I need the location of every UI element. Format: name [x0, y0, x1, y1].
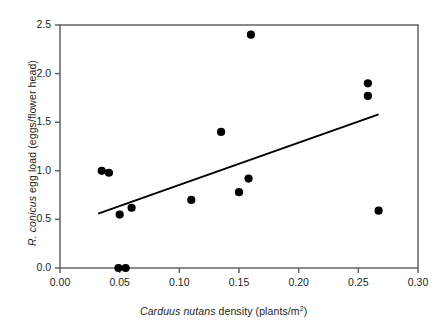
data-point [364, 92, 372, 100]
plot-canvas [0, 0, 445, 335]
data-point [116, 210, 124, 218]
data-point [375, 207, 383, 215]
trend-line [98, 114, 378, 213]
data-points [98, 31, 383, 272]
plot-frame [60, 25, 418, 268]
data-point [114, 264, 122, 272]
data-point [187, 196, 195, 204]
axis-ticks [55, 25, 418, 273]
scatter-plot-figure: R. conicus egg load (eggs/flower head) C… [0, 0, 445, 335]
data-point [128, 204, 136, 212]
data-point [244, 174, 252, 182]
data-point [122, 264, 130, 272]
data-point [105, 169, 113, 177]
data-point [217, 128, 225, 136]
data-point [98, 167, 106, 175]
data-point [364, 79, 372, 87]
data-point [247, 31, 255, 39]
data-point [235, 188, 243, 196]
